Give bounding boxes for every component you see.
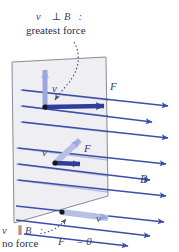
charge-dot-parallel: [59, 209, 64, 214]
field-label: B⃗: [140, 172, 157, 186]
force-label-middle: F⃗: [83, 142, 99, 154]
charge-dot-perpendicular: [42, 104, 47, 109]
force-label-top: F⃗: [109, 80, 125, 92]
bottom-annotation-line1: v⃗ ∥ B⃗:: [2, 225, 43, 236]
top-annotation-line2: greatest force: [26, 24, 86, 36]
force-arrow-perpendicular: [45, 106, 104, 107]
zero-force-equation: F⃗ = 0⃗: [57, 235, 100, 247]
velocity-label-middle: v⃗: [42, 146, 55, 158]
top-annotation-line1: v⃗ ⊥ B⃗:: [36, 11, 82, 22]
velocity-label-top: v⃗: [52, 82, 65, 94]
velocity-label-bottom: v⃗: [96, 212, 109, 224]
magnetic-force-diagram: v⃗ F⃗ v⃗ F⃗ v⃗ B⃗ v⃗ ⊥ B⃗: greatest forc…: [0, 0, 179, 252]
force-arrow-oblique: [55, 163, 80, 164]
charge-dot-oblique: [52, 160, 57, 165]
bottom-annotation-line2: no force: [2, 237, 38, 249]
diagram-canvas: v⃗ F⃗ v⃗ F⃗ v⃗ B⃗ v⃗ ⊥ B⃗: greatest forc…: [0, 0, 179, 252]
